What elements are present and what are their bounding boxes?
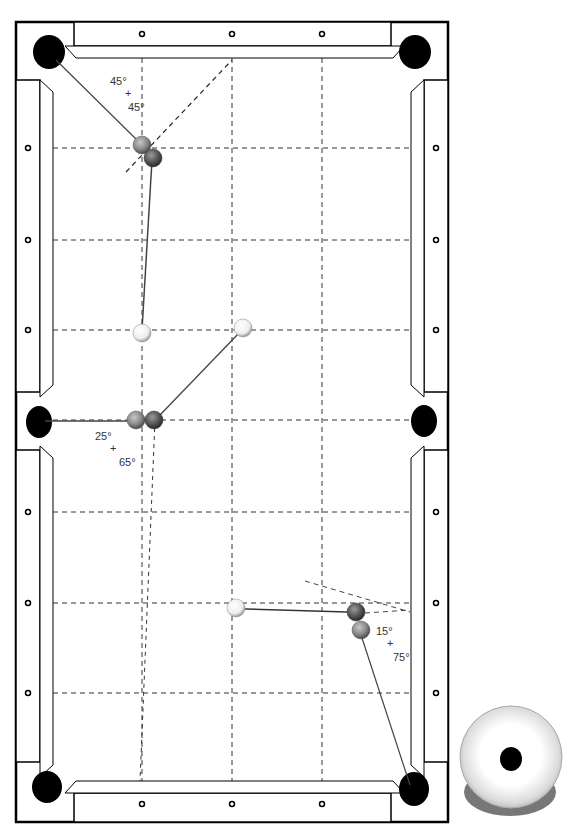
plus-label: + — [110, 442, 116, 454]
plus-label: + — [125, 87, 131, 99]
cut-angle-label: 25° — [95, 430, 112, 442]
cue-ball — [234, 319, 252, 337]
ghost-ball — [145, 411, 163, 429]
complement-angle-label: 75° — [393, 651, 410, 663]
pocket-side-right — [411, 405, 437, 437]
cue-ball — [227, 599, 245, 617]
ghost-ball — [347, 603, 365, 621]
pool-table-diagram: 45° + 45° 25° + 65° 15° + 75° — [0, 0, 581, 840]
cue-ball — [133, 324, 151, 342]
pocket-bottom-right — [399, 772, 429, 806]
object-ball — [352, 621, 370, 639]
complement-angle-label: 45° — [128, 101, 145, 113]
ghost-ball — [144, 149, 162, 167]
plus-label: + — [387, 637, 393, 649]
object-ball — [127, 411, 145, 429]
cue-ball-aim-diagram — [460, 706, 562, 816]
complement-angle-label: 65° — [119, 456, 136, 468]
cut-angle-label: 15° — [376, 625, 393, 637]
pocket-bottom-left — [32, 771, 62, 803]
aim-point-icon — [500, 747, 522, 771]
pocket-top-right — [399, 35, 431, 69]
pocket-side-left — [26, 406, 52, 438]
cut-angle-label: 45° — [110, 75, 127, 87]
